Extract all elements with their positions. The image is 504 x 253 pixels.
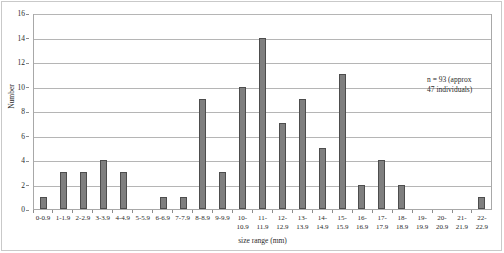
x-tick-label: 9-9.9 [213, 214, 233, 238]
bar[interactable] [358, 185, 365, 210]
y-tick-label: 16 [18, 10, 26, 18]
x-tick-label-line: 16- [352, 214, 372, 223]
x-tick-mark [232, 210, 233, 213]
x-tick-label-line: 14- [312, 214, 332, 223]
y-tick-mark [26, 185, 29, 186]
x-tick-mark [252, 210, 253, 213]
bar[interactable] [60, 172, 67, 209]
bar[interactable] [100, 160, 107, 209]
bar-slot [412, 15, 432, 209]
x-tick-label: 11-11.9 [252, 214, 272, 238]
x-axis-title: size range (mm) [33, 236, 492, 245]
bar-slot [292, 15, 312, 209]
bar[interactable] [279, 123, 286, 209]
bar-slot [392, 15, 412, 209]
bar-slot [94, 15, 114, 209]
x-tick-label-line: 4-4.9 [113, 214, 133, 223]
x-tick-mark [332, 210, 333, 213]
x-tick-label-line: 21- [452, 214, 472, 223]
plot-area: n = 93 (approx47 individuals) [33, 14, 492, 210]
x-tick-mark [72, 210, 73, 213]
x-tick-label-line: 18.9 [392, 223, 412, 232]
x-tick-label: 15-15.9 [332, 214, 352, 238]
bar[interactable] [180, 197, 187, 209]
x-tick-mark [452, 210, 453, 213]
x-tick-label: 21-21.9 [452, 214, 472, 238]
bar-slot [54, 15, 74, 209]
bar-slot [471, 15, 491, 209]
x-tick-label-line: 15- [332, 214, 352, 223]
bar[interactable] [199, 99, 206, 209]
x-axis-tick-labels: 0-0.91-1.92-2.93-3.94-4.95-5.96-6.97-7.9… [33, 214, 492, 238]
x-tick-label-line: 10.9 [233, 223, 253, 232]
x-tick-label-line: 10- [233, 214, 253, 223]
y-tick-mark [26, 87, 29, 88]
y-tick-label: 0 [21, 206, 25, 214]
x-tick-mark [412, 210, 413, 213]
histogram-chart: Number 0246810121416 n = 93 (approx47 in… [0, 0, 504, 253]
x-tick-label-line: 21.9 [452, 223, 472, 232]
x-tick-label: 0-0.9 [33, 214, 53, 238]
bar[interactable] [120, 172, 127, 209]
x-tick-label-line: 9-9.9 [213, 214, 233, 223]
bar[interactable] [339, 74, 346, 209]
x-tick-label-line: 19.9 [412, 223, 432, 232]
x-tick-label-line: 17- [372, 214, 392, 223]
bar-slot [34, 15, 54, 209]
x-tick-label: 7-7.9 [173, 214, 193, 238]
x-tick-label-line: 3-3.9 [93, 214, 113, 223]
bar[interactable] [299, 99, 306, 209]
bar[interactable] [319, 148, 326, 209]
x-tick-mark [312, 210, 313, 213]
x-tick-label-line: 22- [472, 214, 492, 223]
bar[interactable] [160, 197, 167, 209]
x-tick-label-line: 19- [412, 214, 432, 223]
bar[interactable] [239, 87, 246, 210]
x-tick-label-line: 8-8.9 [193, 214, 213, 223]
x-tick-label: 12-12.9 [272, 214, 292, 238]
bar[interactable] [40, 197, 47, 209]
bar[interactable] [378, 160, 385, 209]
y-tick-mark [26, 38, 29, 39]
bar[interactable] [219, 172, 226, 209]
x-tick-label: 22-22.9 [472, 214, 492, 238]
x-tick-label: 17-17.9 [372, 214, 392, 238]
x-tick-mark [92, 210, 93, 213]
y-tick-mark [26, 14, 29, 15]
bar-slot [312, 15, 332, 209]
sample-size-annotation: n = 93 (approx47 individuals) [427, 75, 472, 94]
x-tick-label: 13-13.9 [292, 214, 312, 238]
bar[interactable] [398, 185, 405, 210]
bar-slot [173, 15, 193, 209]
y-tick-label: 6 [21, 133, 25, 141]
y-tick-mark [26, 112, 29, 113]
x-tick-label-line: 0-0.9 [33, 214, 53, 223]
bar[interactable] [478, 197, 485, 209]
bar-slot [352, 15, 372, 209]
x-tick-label-line: 15.9 [332, 223, 352, 232]
y-tick-label: 8 [21, 108, 25, 116]
x-tick-label-line: 12.9 [272, 223, 292, 232]
bar[interactable] [80, 172, 87, 209]
x-tick-label-line: 20.9 [432, 223, 452, 232]
x-tick-mark [212, 210, 213, 213]
x-tick-label: 20-20.9 [432, 214, 452, 238]
x-tick-mark [352, 210, 353, 213]
bar-slot [451, 15, 471, 209]
y-tick-label: 2 [21, 182, 25, 190]
y-axis-tick-labels: 0246810121416 [0, 14, 29, 210]
y-tick-label: 10 [18, 84, 26, 92]
bar-slot [273, 15, 293, 209]
bar-slot [74, 15, 94, 209]
bar[interactable] [259, 38, 266, 210]
x-tick-label: 10-10.9 [233, 214, 253, 238]
x-tick-label-line: 5-5.9 [133, 214, 153, 223]
bar-slot [432, 15, 452, 209]
x-tick-label-line: 18- [392, 214, 412, 223]
bar-slot [153, 15, 173, 209]
x-tick-label-line: 13.9 [292, 223, 312, 232]
x-tick-mark [33, 210, 34, 213]
bar-slot [133, 15, 153, 209]
x-tick-label: 19-19.9 [412, 214, 432, 238]
bar-slot [213, 15, 233, 209]
